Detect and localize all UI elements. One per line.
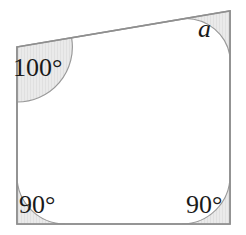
- angle-label-top-right: a: [198, 16, 211, 42]
- angle-label-bottom-left: 90°: [19, 192, 55, 218]
- angle-label-bottom-right: 90°: [186, 192, 222, 218]
- angle-label-top-left: 100°: [13, 55, 62, 81]
- diagram-canvas: 100° a 90° 90°: [0, 0, 246, 235]
